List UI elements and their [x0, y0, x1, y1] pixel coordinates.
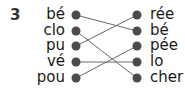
right-dot[interactable] — [133, 74, 142, 83]
connection-line — [76, 31, 137, 78]
left-dot[interactable] — [72, 74, 81, 83]
left-dot[interactable] — [72, 42, 81, 51]
left-dot[interactable] — [72, 58, 81, 67]
connection-line — [76, 15, 137, 31]
right-dot[interactable] — [133, 58, 142, 67]
right-dot[interactable] — [133, 11, 142, 20]
left-dot[interactable] — [72, 11, 81, 20]
left-dot[interactable] — [72, 27, 81, 36]
right-dot[interactable] — [133, 42, 142, 51]
connection-line — [76, 15, 137, 46]
matching-lines — [0, 0, 185, 88]
right-dot[interactable] — [133, 27, 142, 36]
